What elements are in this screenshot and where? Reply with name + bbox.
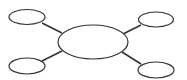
connector-top-left-to-center [42,23,62,33]
central-node-ellipse [58,25,128,59]
node-top-right [139,12,174,27]
node-bottom-right-ellipse [138,62,174,78]
node-bottom-right [138,62,174,78]
node-bottom-left [9,58,45,74]
connector-bottom-right-to-center [122,52,141,64]
node-top-right-ellipse [139,12,174,27]
mind-map-diagram [0,0,187,80]
node-top-left-ellipse [9,10,45,25]
central-node [58,25,128,59]
connector-bottom-left-to-center [42,51,62,61]
node-top-left [9,10,45,25]
connector-top-right-to-center [123,25,141,34]
diagram-nodes [9,10,174,79]
node-bottom-left-ellipse [9,58,45,74]
